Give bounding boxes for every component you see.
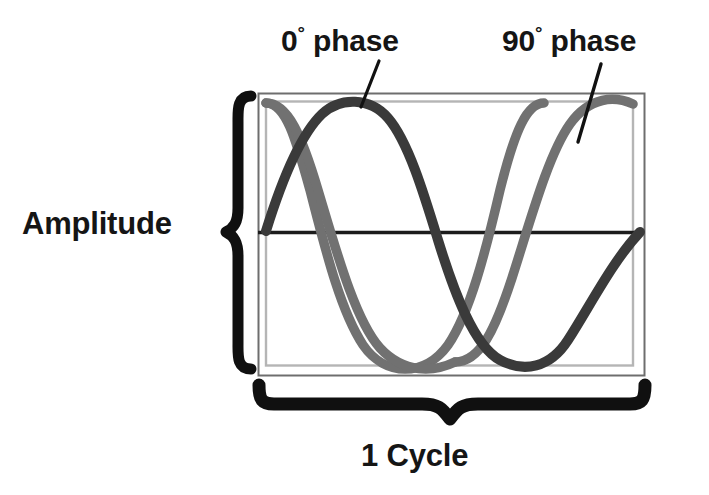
amplitude-brace-icon — [226, 96, 251, 369]
degree-symbol-icon: ° — [298, 22, 305, 43]
label-phase-0: 0° phase — [281, 24, 399, 56]
waveform-phase-diagram: 0° phase 90° phase Amplitude 1 Cycle — [0, 0, 709, 495]
label-one-cycle: 1 Cycle — [361, 440, 468, 471]
diagram-canvas — [0, 0, 709, 495]
label-amplitude: Amplitude — [22, 208, 172, 239]
label-phase-90-suffix: phase — [542, 24, 636, 57]
label-phase-90: 90° phase — [502, 24, 636, 56]
wave-90-phase-segment-2 — [455, 99, 633, 362]
label-phase-0-suffix: phase — [305, 24, 399, 57]
label-phase-0-value: 0 — [281, 24, 298, 57]
label-phase-90-value: 90 — [502, 24, 535, 57]
cycle-brace-icon — [259, 385, 645, 419]
